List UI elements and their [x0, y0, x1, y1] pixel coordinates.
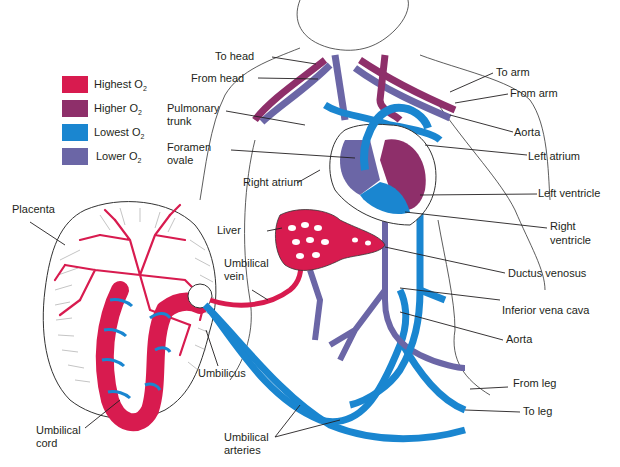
label-to-leg: To leg [523, 405, 552, 417]
label-umbilical-arteries-1: Umbilical [224, 431, 269, 443]
label-left-ventricle: Left ventricle [538, 187, 600, 199]
label-right-ventricle-2: ventricle [550, 234, 591, 246]
svg-text:Highest O2: Highest O2 [94, 78, 147, 92]
label-pulmonary-trunk-2: trunk [167, 115, 192, 127]
label-aorta-bottom: Aorta [506, 333, 533, 345]
label-umbilical-cord-2: cord [36, 437, 57, 449]
label-pulmonary-trunk-1: Pulmonary [167, 102, 220, 114]
legend-swatch-lowest [62, 124, 88, 141]
heart [330, 108, 436, 225]
label-from-arm: From arm [510, 87, 558, 99]
legend-label-highest: Highest O [94, 78, 143, 90]
label-placenta: Placenta [12, 203, 56, 215]
label-umbilical-arteries-2: arteries [224, 444, 261, 456]
label-right-atrium: Right atrium [243, 176, 302, 188]
label-foramen-ovale-2: ovale [167, 154, 193, 166]
svg-text:Lower O2: Lower O2 [96, 150, 142, 164]
umbilical-arteries [205, 290, 465, 439]
label-umbilical-vein-2: vein [224, 270, 244, 282]
legend-label-lowest: Lowest O [94, 126, 141, 138]
label-umbilical-vein-1: Umbilical [224, 257, 269, 269]
label-aorta-top: Aorta [514, 126, 541, 138]
label-right-ventricle-1: Right [550, 220, 576, 232]
label-foramen-ovale-1: Foramen [167, 141, 211, 153]
label-ductus-venosus: Ductus venosus [508, 267, 587, 279]
legend-swatch-highest [62, 76, 88, 93]
label-left-atrium: Left atrium [528, 150, 580, 162]
label-inferior-vena-cava: Inferior vena cava [502, 304, 590, 316]
label-umbilicus: Umbilicus [198, 367, 246, 379]
placenta [43, 202, 216, 423]
label-liver: Liver [217, 224, 241, 236]
legend-swatch-lower [62, 148, 88, 165]
label-umbilical-cord-1: Umbilical [36, 424, 81, 436]
label-to-arm: To arm [496, 66, 530, 78]
legend-swatch-higher [62, 100, 88, 117]
svg-text:Lowest O2: Lowest O2 [94, 126, 144, 140]
liver [275, 210, 385, 271]
legend: Highest O2 Higher O2 Lowest O2 Lower O2 [62, 76, 147, 165]
legend-label-higher: Higher O [94, 102, 138, 114]
svg-text:Higher O2: Higher O2 [94, 102, 142, 116]
label-from-head: From head [191, 72, 244, 84]
legend-label-lower: Lower O [96, 150, 138, 162]
label-to-head: To head [215, 50, 254, 62]
fetal-circulation-diagram: Highest O2 Higher O2 Lowest O2 Lower O2 [0, 0, 620, 467]
label-from-leg: From leg [513, 377, 556, 389]
